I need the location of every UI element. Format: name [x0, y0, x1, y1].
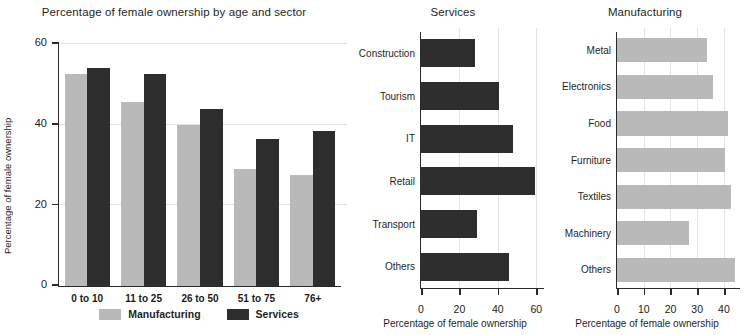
y-axis-title: Percentage of female ownership [2, 96, 16, 276]
x-axis-tick: 20 [670, 288, 672, 295]
bar-row: Construction [421, 32, 544, 75]
bar-row: Furniture [617, 142, 740, 179]
category-label: Retail [389, 176, 415, 187]
services-bar-chart-panel: Services 0204060 ConstructionTourismITRe… [360, 0, 550, 335]
legend-swatch-services [227, 309, 249, 320]
bar-group: 11 to 25 [115, 44, 171, 286]
x-axis-tick: 30 [697, 288, 699, 295]
legend-swatch-manufacturing [99, 309, 121, 320]
bar-manufacturing [617, 75, 713, 99]
bar-manufacturing [617, 221, 689, 245]
bar-services [200, 109, 223, 286]
services-chart-title: Services [360, 6, 546, 18]
x-axis-tick-label: 20 [454, 303, 466, 315]
x-axis-tick-label: 51 to 75 [238, 293, 275, 304]
bar-services [421, 39, 475, 67]
bar-group: 26 to 50 [172, 44, 228, 286]
x-axis-tick: 60 [536, 288, 538, 295]
bar-services [87, 68, 110, 286]
category-label: Transport [373, 219, 415, 230]
manufacturing-chart-title: Manufacturing [550, 6, 740, 18]
services-x-axis-title: Percentage of female ownership [360, 318, 550, 329]
figure-container: Percentage of female ownership by age an… [0, 0, 744, 335]
x-axis-tick-label: 60 [530, 303, 542, 315]
bar-manufacturing [65, 74, 88, 286]
bar-row: Others [617, 251, 740, 288]
grouped-bar-chart-panel: Percentage of female ownership by age an… [0, 0, 360, 335]
bar-row: Electronics [617, 69, 740, 106]
manufacturing-x-axis-title: Percentage of female ownership [550, 318, 744, 329]
bar-manufacturing [177, 125, 200, 286]
category-label: Others [581, 264, 611, 275]
bar-services [256, 139, 279, 286]
x-axis-tick-label: 0 [614, 303, 620, 315]
bar-row: Others [421, 245, 544, 288]
bar-row: IT [421, 117, 544, 160]
bars-group: 0 to 1011 to 2526 to 5051 to 7576+ [59, 44, 341, 286]
bar-group: 51 to 75 [228, 44, 284, 286]
x-axis-tick-label: 0 [418, 303, 424, 315]
y-axis-tick-label: 20 [35, 198, 47, 210]
legend-label-manufacturing: Manufacturing [128, 308, 200, 320]
x-axis-tick-label: 76+ [304, 293, 321, 304]
bar-services [313, 131, 336, 286]
category-label: Food [588, 118, 611, 129]
bar-manufacturing [290, 175, 313, 286]
category-label: Electronics [562, 81, 611, 92]
y-axis-tick-label: 40 [35, 117, 47, 129]
category-label: IT [406, 133, 415, 144]
y-axis-tick-label: 0 [41, 278, 47, 290]
bar-services [144, 74, 167, 286]
bar-group: 76+ [285, 44, 341, 286]
bar-manufacturing [617, 185, 731, 209]
y-axis-tick: 20 [52, 204, 59, 206]
bar-row: Tourism [421, 75, 544, 118]
chart-title: Percentage of female ownership by age an… [0, 6, 348, 18]
x-axis-tick-label: 30 [691, 303, 703, 315]
x-axis-tick: 40 [498, 288, 500, 295]
x-axis-tick-label: 26 to 50 [181, 293, 218, 304]
bar-services [421, 82, 499, 110]
plot-area-services: 0204060 ConstructionTourismITRetailTrans… [420, 32, 544, 289]
chart-legend: Manufacturing Services [58, 308, 340, 320]
x-axis-tick-label: 10 [638, 303, 650, 315]
manufacturing-bars-group: MetalElectronicsFoodFurnitureTextilesMac… [617, 32, 740, 288]
category-label: Others [385, 261, 415, 272]
bar-services [421, 253, 509, 281]
y-axis-tick: 40 [52, 123, 59, 125]
x-axis-tick-label: 20 [665, 303, 677, 315]
category-label: Tourism [380, 91, 415, 102]
bar-manufacturing [617, 148, 725, 172]
bar-row: Metal [617, 32, 740, 69]
bar-manufacturing [617, 258, 735, 282]
bar-row: Machinery [617, 215, 740, 252]
bar-services [421, 167, 535, 195]
bar-manufacturing [121, 102, 144, 286]
bar-row: Retail [421, 160, 544, 203]
services-bars-group: ConstructionTourismITRetailTransportOthe… [421, 32, 544, 288]
y-axis-tick-label: 60 [35, 36, 47, 48]
bar-services [421, 125, 513, 153]
category-label: Construction [359, 48, 415, 59]
category-label: Textiles [578, 191, 611, 202]
category-label: Metal [587, 45, 611, 56]
plot-area-grouped: 0204060 0 to 1011 to 2526 to 5051 to 757… [58, 44, 341, 287]
plot-area-manufacturing: 010203040 MetalElectronicsFoodFurnitureT… [616, 32, 740, 289]
x-axis-tick: 20 [459, 288, 461, 295]
x-axis-tick: 10 [644, 288, 646, 295]
x-axis-tick: 0 [617, 288, 619, 295]
category-label: Furniture [571, 155, 611, 166]
manufacturing-bar-chart-panel: Manufacturing 010203040 MetalElectronics… [550, 0, 744, 335]
x-axis-tick: 0 [421, 288, 423, 295]
legend-label-services: Services [256, 308, 299, 320]
category-label: Machinery [565, 228, 611, 239]
x-axis-tick-label: 40 [718, 303, 730, 315]
y-axis-tick: 60 [52, 42, 59, 44]
bar-row: Transport [421, 203, 544, 246]
y-axis-tick: 0 [52, 284, 59, 286]
legend-item-services: Services [227, 308, 299, 320]
bar-manufacturing [234, 169, 257, 286]
bar-services [421, 210, 477, 238]
x-axis-tick: 40 [724, 288, 726, 295]
bar-manufacturing [617, 38, 707, 62]
